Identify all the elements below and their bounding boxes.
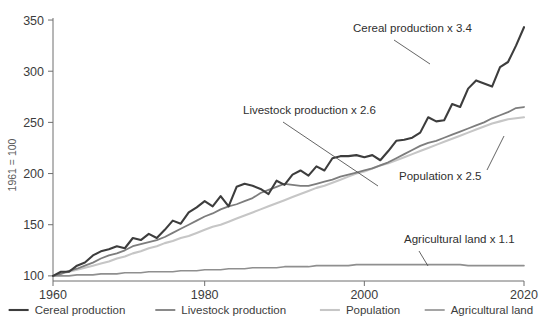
series-line-livestock-production <box>53 107 524 276</box>
x-tick-group: 1960198020002020 <box>39 281 538 302</box>
annotation-livestock-label: Livestock production x 2.6 <box>243 104 376 116</box>
y-axis-title: 1961 = 100 <box>6 138 18 191</box>
y-tick-label: 150 <box>23 218 44 232</box>
annotation-population: Population x 2.5 <box>399 136 504 182</box>
series-line-agricultural-land <box>53 265 524 276</box>
annotation-agland: Agricultural land x 1.1 <box>404 233 515 266</box>
x-tick-label: 1980 <box>191 288 219 302</box>
y-tick-label: 250 <box>23 116 44 130</box>
annotation-population-label: Population x 2.5 <box>399 170 481 182</box>
y-axis: 100150200250300350 <box>23 14 53 284</box>
y-tick-label: 300 <box>23 65 44 79</box>
y-tick-label: 100 <box>23 269 44 283</box>
y-axis-title-group: 1961 = 100 <box>6 138 18 191</box>
annotation-cereal-label: Cereal production x 3.4 <box>353 22 473 34</box>
x-axis: 1960198020002020 <box>39 281 538 302</box>
line-chart: 1961 = 100 100150200250300350 1960198020… <box>0 0 545 329</box>
annotation-agland-leader <box>419 251 428 266</box>
x-tick-label: 1960 <box>39 288 67 302</box>
y-tick-group: 100150200250300350 <box>23 14 53 284</box>
x-tick-label: 2000 <box>350 288 378 302</box>
legend-label-agricultural-land[interactable]: Agricultural land <box>451 304 533 316</box>
legend-label-livestock-production[interactable]: Livestock production <box>181 304 286 316</box>
annotation-cereal-leader <box>394 40 430 64</box>
legend-label-population[interactable]: Population <box>346 304 400 316</box>
series-line-population <box>53 117 524 276</box>
annotation-cereal: Cereal production x 3.4 <box>353 22 473 64</box>
x-tick-label: 2020 <box>510 288 538 302</box>
annotation-livestock-leader <box>283 122 378 186</box>
y-tick-label: 200 <box>23 167 44 181</box>
legend-label-cereal-production[interactable]: Cereal production <box>35 304 126 316</box>
chart-container: 1961 = 100 100150200250300350 1960198020… <box>0 0 545 329</box>
annotation-population-leader <box>487 136 504 170</box>
legend: Cereal productionLivestock productionPop… <box>9 304 534 316</box>
annotation-agland-label: Agricultural land x 1.1 <box>404 233 515 245</box>
y-tick-label: 350 <box>23 14 44 28</box>
